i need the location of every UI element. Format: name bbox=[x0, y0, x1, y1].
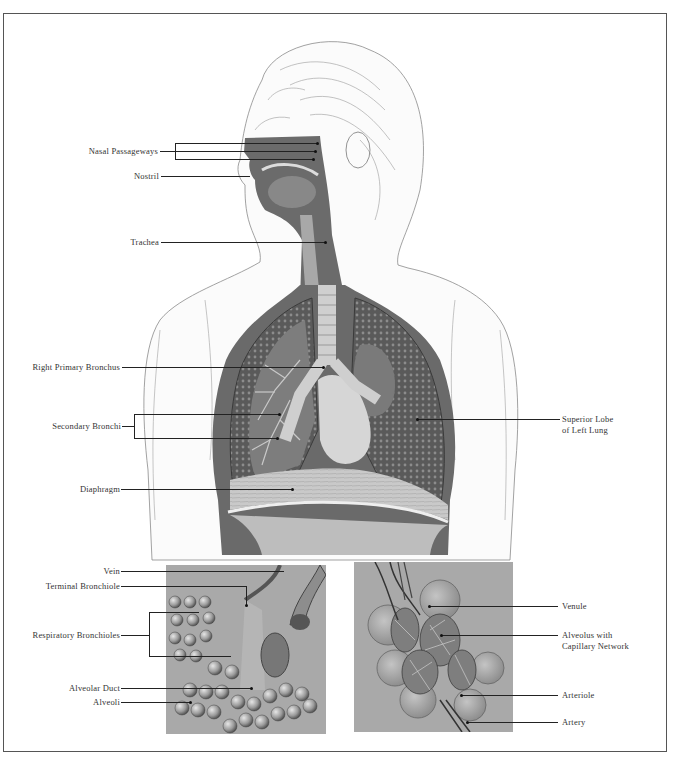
label-nasal-passageways: Nasal Passageways bbox=[89, 146, 158, 156]
leader-nasal-2 bbox=[175, 151, 316, 152]
label-superior-lobe-line2: of Left Lung bbox=[562, 425, 608, 435]
leader-trachea bbox=[161, 242, 326, 243]
pointer-dot bbox=[316, 142, 319, 145]
leader-right-primary-bronchus bbox=[122, 367, 324, 368]
pointer-dot bbox=[324, 241, 327, 244]
respiratory-illustration bbox=[0, 0, 673, 769]
leader-diaphragm bbox=[121, 489, 293, 490]
pointer-dot bbox=[291, 488, 294, 491]
label-trachea: Trachea bbox=[131, 237, 159, 247]
label-alveolus-line2: Capillary Network bbox=[562, 641, 629, 651]
label-secondary-bronchi: Secondary Bronchi bbox=[52, 421, 121, 431]
leader-nasal-passageways bbox=[160, 151, 175, 152]
label-venule: Venule bbox=[562, 601, 587, 611]
leader-terminal-bronchiole-drop bbox=[246, 586, 247, 606]
label-artery: Artery bbox=[562, 717, 585, 727]
leader-respiratory-1 bbox=[149, 612, 199, 613]
label-alveolar-duct: Alveolar Duct bbox=[69, 683, 120, 693]
pointer-dot bbox=[189, 701, 192, 704]
label-arteriole: Arteriole bbox=[562, 690, 594, 700]
leader-arteriole bbox=[462, 695, 558, 696]
bracket-secondary-bronchi bbox=[134, 414, 135, 439]
pointer-dot bbox=[278, 413, 281, 416]
pointer-dot bbox=[466, 721, 469, 724]
leader-venule bbox=[430, 606, 558, 607]
leader-nasal-3 bbox=[175, 159, 314, 160]
leader-secondary-2 bbox=[134, 438, 278, 439]
label-terminal-bronchiole: Terminal Bronchiole bbox=[46, 581, 120, 591]
pointer-dot bbox=[314, 150, 317, 153]
bracket-respiratory-bronchioles bbox=[149, 612, 150, 657]
pointer-dot bbox=[440, 634, 443, 637]
leader-vein bbox=[121, 571, 284, 572]
pointer-dot bbox=[416, 418, 419, 421]
pointer-dot bbox=[460, 694, 463, 697]
pointer-dot bbox=[312, 158, 315, 161]
label-respiratory-bronchioles: Respiratory Bronchioles bbox=[33, 630, 120, 640]
pointer-dot bbox=[322, 366, 325, 369]
label-nostril: Nostril bbox=[134, 171, 159, 181]
pointer-dot bbox=[250, 687, 253, 690]
leader-nasal-1 bbox=[175, 143, 318, 144]
leader-alveolus bbox=[442, 635, 558, 636]
pointer-dot bbox=[428, 605, 431, 608]
label-superior-lobe-line1: Superior Lobe bbox=[562, 414, 613, 424]
label-right-primary-bronchus: Right Primary Bronchus bbox=[32, 362, 120, 372]
leader-alveolar-duct bbox=[121, 688, 252, 689]
label-alveolus-line1: Alveolus with bbox=[562, 630, 613, 640]
leader-respiratory-bronchioles bbox=[121, 635, 149, 636]
leader-superior-lobe bbox=[418, 419, 560, 420]
label-alveoli: Alveoli bbox=[93, 697, 120, 707]
leader-artery bbox=[468, 722, 558, 723]
label-diaphragm: Diaphragm bbox=[80, 484, 120, 494]
inset-capillary-network bbox=[354, 562, 513, 732]
leader-respiratory-2 bbox=[149, 656, 231, 657]
leader-secondary-1 bbox=[134, 414, 280, 415]
leader-alveoli bbox=[121, 702, 191, 703]
pointer-dot bbox=[245, 604, 248, 607]
leader-secondary-bronchi bbox=[122, 426, 134, 427]
label-vein: Vein bbox=[104, 566, 120, 576]
pointer-dot bbox=[276, 437, 279, 440]
leader-nostril bbox=[161, 176, 250, 177]
leader-terminal-bronchiole bbox=[121, 586, 246, 587]
